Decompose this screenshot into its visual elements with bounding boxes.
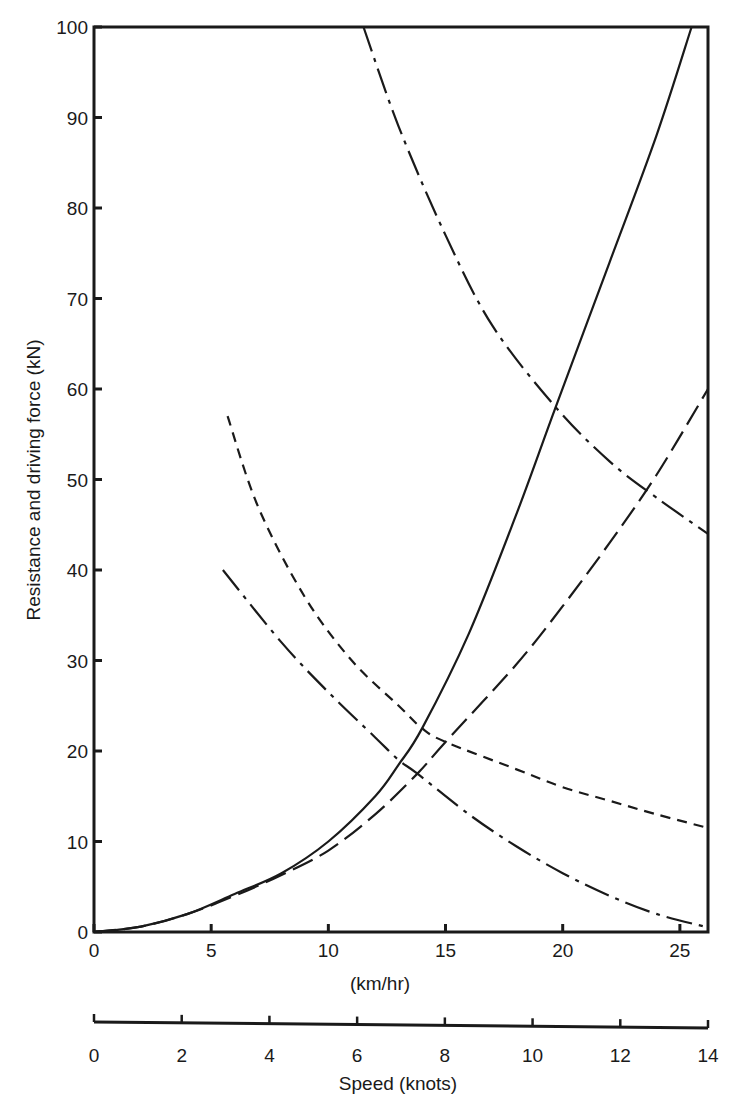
curve-resistance-solid [94, 27, 692, 932]
knots-tick-label: 0 [89, 1045, 100, 1066]
y-tick-label: 50 [67, 470, 88, 491]
chart: 0102030405060708090100 0510152025 024681… [0, 0, 744, 1116]
knots-tick-label: 4 [264, 1045, 275, 1066]
secondary-x-axis-title: Speed (knots) [339, 1073, 457, 1094]
y-tick-label: 80 [67, 198, 88, 219]
x-tick-label: 0 [89, 940, 100, 961]
y-tick-label: 40 [67, 560, 88, 581]
x-tick-label: 20 [552, 940, 573, 961]
y-tick-label: 20 [67, 741, 88, 762]
y-axis-title: Resistance and driving force (kN) [23, 340, 44, 621]
secondary-x-axis-knots: 02468101214 [89, 1014, 719, 1066]
knots-tick-label: 8 [440, 1045, 451, 1066]
x-tick-label: 25 [669, 940, 690, 961]
curves [94, 27, 708, 932]
curve-thrust-short-dash [228, 416, 708, 828]
y-tick-label: 90 [67, 108, 88, 129]
x-tick-label: 5 [206, 940, 217, 961]
y-tick-label: 60 [67, 379, 88, 400]
x-axis: 0510152025 [89, 924, 691, 961]
knots-axis-line [94, 1022, 708, 1028]
x-axis-title: (km/hr) [350, 973, 410, 994]
curve-driving-force-dash-dot-lower [223, 570, 708, 927]
x-tick-label: 10 [318, 940, 339, 961]
x-tick-label: 15 [435, 940, 456, 961]
y-tick-label: 30 [67, 651, 88, 672]
y-tick-label: 100 [56, 17, 88, 38]
knots-tick-label: 2 [176, 1045, 187, 1066]
y-tick-label: 0 [77, 922, 88, 943]
y-tick-label: 70 [67, 289, 88, 310]
knots-tick-label: 10 [522, 1045, 543, 1066]
curve-resistance-long-dash [94, 389, 708, 932]
knots-tick-label: 12 [610, 1045, 631, 1066]
y-tick-label: 10 [67, 832, 88, 853]
knots-tick-label: 14 [697, 1045, 719, 1066]
plot-frame [94, 27, 708, 932]
plot-border [94, 27, 708, 932]
curve-driving-force-dash-dot-upper [364, 27, 708, 534]
knots-tick-label: 6 [352, 1045, 363, 1066]
